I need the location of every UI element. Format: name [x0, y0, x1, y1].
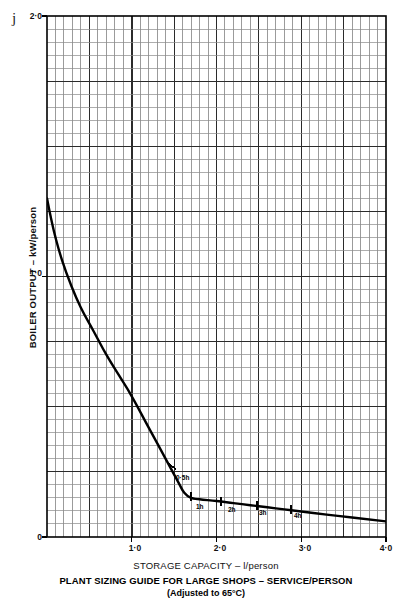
annotation-label-4h: 4h — [294, 512, 302, 519]
annotation-label-1h: 1h — [196, 503, 204, 510]
x-axis-title: STORAGE CAPACITY – l/person — [0, 560, 412, 571]
chart-figure: j BOILER OUTPUT – kW/person 2·0 1·0 0 1·… — [0, 0, 412, 604]
plot-area — [0, 0, 412, 604]
chart-subtitle: (Adjusted to 65°C) — [0, 588, 412, 598]
grid-lines — [47, 16, 386, 537]
chart-title: PLANT SIZING GUIDE FOR LARGE SHOPS – SER… — [0, 575, 412, 586]
annotation-label-0-5h: 0·5h — [176, 474, 189, 481]
annotation-label-2h: 2h — [228, 506, 236, 513]
annotation-label-3h: 3h — [259, 509, 267, 516]
